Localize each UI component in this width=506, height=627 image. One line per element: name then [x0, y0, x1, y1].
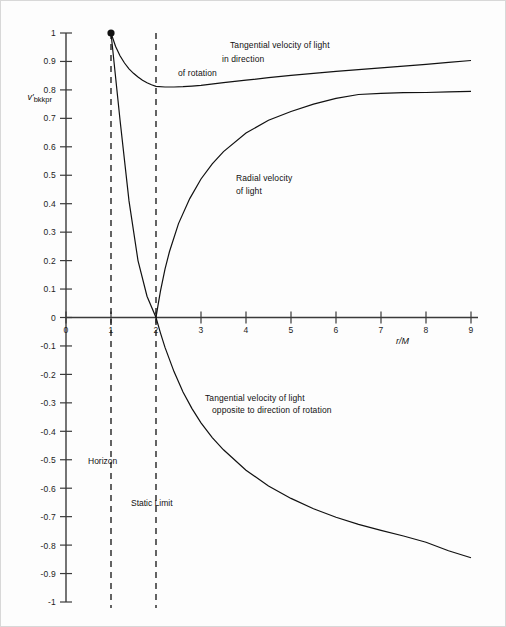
- x-axis-label: r/M: [396, 336, 409, 346]
- y-tick-label: 0: [8, 313, 56, 323]
- y-tick-label: -0.6: [8, 484, 56, 494]
- x-tick-label: 1: [99, 325, 123, 335]
- annotation-tangential-forward-line1: Tangential velocity of light: [230, 40, 330, 51]
- y-tick-label: 0.9: [8, 56, 56, 66]
- y-tick-label: 0.5: [8, 170, 56, 180]
- x-tick-label: 9: [459, 325, 483, 335]
- y-tick-label: 0.1: [8, 284, 56, 294]
- annotation-radial-line2: of light: [236, 186, 262, 197]
- horizon-label: Horizon: [88, 456, 117, 466]
- x-tick-label: 7: [369, 325, 393, 335]
- annotation-tangential-opposite-line2: opposite to direction of rotation: [212, 405, 332, 416]
- x-tick-label: 5: [279, 325, 303, 335]
- y-tick-label: -1: [8, 597, 56, 607]
- y-tick-label: 0.7: [8, 113, 56, 123]
- y-tick-label: 0.4: [8, 199, 56, 209]
- y-tick-label: -0.8: [8, 541, 56, 551]
- y-tick-label: 0.2: [8, 256, 56, 266]
- y-tick-label: -0.4: [8, 427, 56, 437]
- y-tick-label: 0.3: [8, 227, 56, 237]
- marker-point-horizon-unity: [107, 29, 114, 36]
- static-limit-label: Static Limit: [131, 498, 173, 508]
- x-tick-label: 8: [414, 325, 438, 335]
- figure-container: v′bkkpr r/M 1 0.9 0.8 0.7 0.6 0.5 0.4 0.…: [0, 0, 506, 627]
- y-tick-label: 0.6: [8, 142, 56, 152]
- annotation-radial-line1: Radial velocity: [236, 173, 292, 184]
- x-tick-label: 3: [189, 325, 213, 335]
- x-tick-label: 0: [54, 325, 78, 335]
- annotation-tangential-forward-line3: of rotation: [178, 68, 217, 79]
- figure-border: [1, 1, 506, 627]
- x-tick-label: 4: [234, 325, 258, 335]
- y-axis-label-subscript: bkkpr: [34, 95, 52, 104]
- y-tick-label: -0.3: [8, 398, 56, 408]
- annotation-tangential-forward-line2: in direction: [222, 54, 264, 65]
- x-tick-label: 2: [144, 325, 168, 335]
- y-tick-label: 1: [8, 28, 56, 38]
- y-tick-label: -0.7: [8, 512, 56, 522]
- y-tick-label: 0.8: [8, 85, 56, 95]
- x-tick-label: 6: [324, 325, 348, 335]
- y-tick-label: -0.2: [8, 370, 56, 380]
- plot-canvas: [0, 0, 506, 627]
- annotation-tangential-opposite-line1: Tangential velocity of light: [205, 393, 305, 404]
- y-tick-label: -0.5: [8, 455, 56, 465]
- y-tick-label: -0.9: [8, 569, 56, 579]
- y-tick-label: -0.1: [8, 341, 56, 351]
